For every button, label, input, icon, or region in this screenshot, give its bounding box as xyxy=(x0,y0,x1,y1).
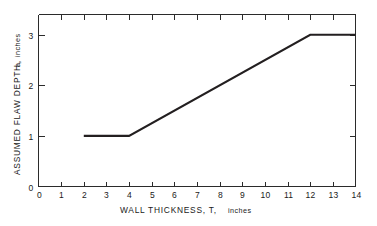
y-axis-title-main: ASSUMED FLAW DEPTH, xyxy=(12,61,22,175)
x-tick-label: 9 xyxy=(240,190,245,200)
x-tick-label: 4 xyxy=(127,190,132,200)
data-series-group xyxy=(84,35,356,136)
x-axis-tick-labels: 01234567891011121314 xyxy=(37,190,361,200)
y-tick-label: 1 xyxy=(29,132,34,142)
x-tick-label: 13 xyxy=(329,190,339,200)
y-tick-label: 2 xyxy=(29,81,34,91)
x-axis-title-main: WALL THICKNESS, T, xyxy=(120,205,217,215)
y-tick-label: 3 xyxy=(29,31,34,41)
x-tick-label: 8 xyxy=(218,190,223,200)
x-tick-label: 10 xyxy=(261,190,271,200)
y-axis-ticks-left xyxy=(39,36,45,137)
x-axis-title: WALL THICKNESS, T, inches xyxy=(120,205,251,215)
line-chart: 01234567891011121314 0123 WALL THICKNESS… xyxy=(0,0,377,226)
y-axis-title-variable: a, xyxy=(13,60,22,67)
x-tick-label: 2 xyxy=(82,190,87,200)
x-axis-ticks-top xyxy=(62,15,334,20)
x-tick-label: 1 xyxy=(59,190,64,200)
x-tick-label: 11 xyxy=(284,190,293,200)
plot-frame xyxy=(39,15,356,187)
x-tick-label: 3 xyxy=(104,190,109,200)
x-tick-label: 5 xyxy=(150,190,155,200)
x-axis-ticks-bottom xyxy=(62,182,334,187)
y-axis-title: ASSUMED FLAW DEPTH, a, inches xyxy=(12,34,22,175)
chart-figure: 01234567891011121314 0123 WALL THICKNESS… xyxy=(0,0,377,226)
x-tick-label: 0 xyxy=(37,190,42,200)
y-axis-ticks-right xyxy=(350,36,356,137)
x-tick-label: 6 xyxy=(172,190,177,200)
x-tick-label: 7 xyxy=(195,190,200,200)
series-assumed-flaw-depth xyxy=(84,35,356,136)
x-axis-title-units: inches xyxy=(228,206,251,215)
x-tick-label: 12 xyxy=(306,190,316,200)
y-axis-title-units: inches xyxy=(13,34,22,57)
y-tick-label: 0 xyxy=(29,183,34,193)
y-axis-tick-labels: 0123 xyxy=(29,31,34,193)
x-tick-label: 14 xyxy=(352,190,362,200)
